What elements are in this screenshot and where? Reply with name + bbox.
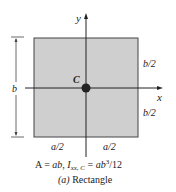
y-axis-arrow-icon	[84, 13, 88, 19]
y-axis-label: y	[75, 12, 81, 24]
x-axis-label: x	[156, 91, 162, 103]
dimension-b-label: b	[12, 83, 17, 94]
rectangle-diagram: y x C b b/2 b/2 a/2 a/2 A = ab, Ixx, C =…	[0, 0, 176, 192]
formula: A = ab, Ixx, C = ab3/12	[35, 158, 122, 172]
half-b-bottom-label: b/2	[143, 107, 156, 118]
x-axis-arrow-icon	[157, 86, 163, 90]
dimension-arrow-up-icon	[15, 38, 18, 42]
half-a-left-label: a/2	[51, 141, 64, 152]
centroid-label: C	[73, 74, 80, 85]
caption: (a) Rectangle	[58, 174, 113, 186]
half-b-top-label: b/2	[143, 58, 156, 69]
dimension-arrow-down-icon	[15, 132, 18, 136]
centroid-dot	[82, 84, 91, 93]
half-a-right-label: a/2	[103, 141, 116, 152]
